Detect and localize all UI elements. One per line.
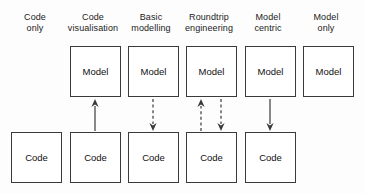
model-box-code-visualisation: Model [70,46,121,97]
code-box-label: Code [200,152,223,163]
column-header-line2: visualisation [60,23,126,34]
model-box-label: Model [83,66,109,77]
column-header-code-visualisation: Codevisualisation [60,12,126,34]
column-header-model-only: Modelonly [293,12,359,34]
code-box-label: Code [259,152,282,163]
model-box-label: Model [141,66,167,77]
arrow-down-solid-model-centric [266,99,273,131]
column-header-line1: Basic [118,12,184,23]
arrow-up-dashed-roundtrip-engineering [197,99,204,131]
model-box-basic-modelling: Model [128,46,179,97]
model-box-label: Model [199,66,225,77]
code-box-code-visualisation: Code [70,132,121,183]
column-header-line1: Code [60,12,126,23]
column-header-line1: Roundtrip [176,12,242,23]
arrow-up-solid-code-visualisation [91,99,98,131]
arrow-down-dashed-roundtrip-engineering [217,99,224,131]
model-box-label: Model [316,66,342,77]
column-header-line2: only [2,23,68,34]
arrow-down-dashed-basic-modelling [149,99,156,131]
code-box-label: Code [142,152,165,163]
model-box-label: Model [258,66,284,77]
column-header-code-only: Codeonly [2,12,68,34]
model-box-model-centric: Model [245,46,296,97]
code-box-roundtrip-engineering: Code [186,132,237,183]
column-header-line2: centric [235,23,301,34]
model-box-roundtrip-engineering: Model [186,46,237,97]
column-header-line1: Code [2,12,68,23]
code-box-label: Code [25,152,48,163]
code-box-model-centric: Code [245,132,296,183]
column-header-basic-modelling: Basicmodelling [118,12,184,34]
column-header-line1: Model [235,12,301,23]
column-header-line1: Model [293,12,359,23]
column-header-model-centric: Modelcentric [235,12,301,34]
code-box-label: Code [84,152,107,163]
code-box-code-only: Code [11,132,62,183]
model-box-model-only: Model [303,46,354,97]
column-header-line2: engineering [176,23,242,34]
column-header-line2: modelling [118,23,184,34]
code-box-basic-modelling: Code [128,132,179,183]
column-header-line2: only [293,23,359,34]
diagram-canvas: CodeonlyCodevisualisationBasicmodellingR… [0,0,365,194]
column-header-roundtrip-engineering: Roundtripengineering [176,12,242,34]
